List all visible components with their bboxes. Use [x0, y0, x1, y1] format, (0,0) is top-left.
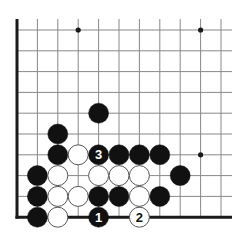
go-board: 312	[0, 0, 245, 244]
move-number: 2	[136, 210, 143, 225]
white-stone	[48, 186, 68, 206]
stone-icon	[109, 166, 129, 186]
stone-icon	[68, 186, 88, 206]
black-stone	[109, 186, 129, 206]
white-stone	[68, 186, 88, 206]
black-stone	[150, 186, 170, 206]
stone-icon	[48, 145, 68, 165]
black-stone	[48, 124, 68, 144]
star-point-icon	[198, 27, 203, 32]
black-stone	[27, 166, 47, 186]
white-stone	[48, 207, 68, 227]
white-stone	[48, 166, 68, 186]
black-stone	[129, 145, 149, 165]
stone-icon	[150, 145, 170, 165]
stone-icon	[150, 186, 170, 206]
black-stone	[170, 166, 190, 186]
stone-icon	[48, 124, 68, 144]
stone-icon	[109, 145, 129, 165]
white-stone	[129, 186, 149, 206]
stone-icon	[27, 207, 47, 227]
stone-icon	[89, 166, 109, 186]
stone-icon	[129, 186, 149, 206]
white-stone-2: 2	[129, 207, 149, 227]
black-stone-3: 3	[89, 145, 109, 165]
star-point-icon	[76, 27, 81, 32]
stone-icon	[68, 145, 88, 165]
move-number: 3	[95, 147, 102, 162]
move-number: 1	[95, 210, 102, 225]
white-stone	[129, 166, 149, 186]
black-stone-1: 1	[89, 207, 109, 227]
stone-icon	[27, 166, 47, 186]
stone-icon	[109, 186, 129, 206]
stone-icon	[48, 186, 68, 206]
black-stone	[89, 103, 109, 123]
black-stone	[27, 186, 47, 206]
stone-icon	[89, 186, 109, 206]
white-stone	[68, 145, 88, 165]
stone-icon	[48, 207, 68, 227]
stone-icon	[129, 166, 149, 186]
black-stone	[48, 145, 68, 165]
stone-icon	[129, 145, 149, 165]
star-point-icon	[198, 152, 203, 157]
black-stone	[27, 207, 47, 227]
black-stone	[89, 186, 109, 206]
black-stone	[109, 145, 129, 165]
white-stone	[89, 166, 109, 186]
stone-icon	[48, 166, 68, 186]
stone-icon	[170, 166, 190, 186]
black-stone	[150, 145, 170, 165]
stone-icon	[27, 186, 47, 206]
stone-icon	[89, 103, 109, 123]
white-stone	[109, 166, 129, 186]
